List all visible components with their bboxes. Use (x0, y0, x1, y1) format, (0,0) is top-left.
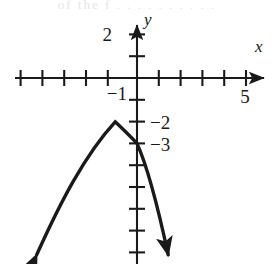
x-tick-label-5: 5 (240, 86, 250, 107)
y-axis-label: y (142, 10, 152, 29)
y-tick-label-neg3: −3 (150, 134, 170, 155)
parabola-curve (37, 122, 169, 255)
graph-figure: of the f . . . . . . . . . . (0, 0, 274, 264)
coordinate-plane: x y 2 −1 5 −2 −3 (0, 0, 274, 264)
x-tick-label-neg1: −1 (107, 83, 127, 104)
y-tick-label-2: 2 (103, 24, 113, 45)
y-tick-label-neg2: −2 (150, 112, 170, 133)
x-axis-label: x (254, 37, 263, 56)
x-axis: x (15, 37, 264, 86)
